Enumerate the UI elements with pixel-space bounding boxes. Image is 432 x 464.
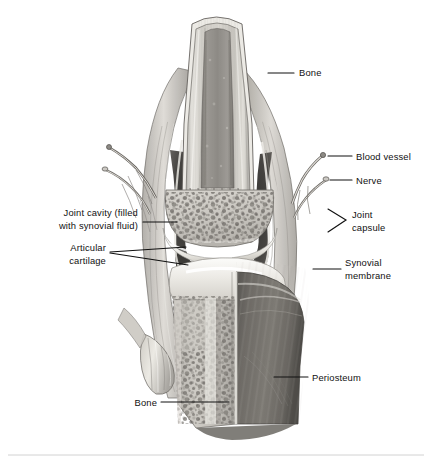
periosteum-texture: [232, 262, 312, 428]
label-nerve: Nerve: [356, 175, 382, 186]
label-articular-cartilage-line2: cartilage: [69, 255, 106, 266]
label-periosteum: Periosteum: [312, 372, 361, 383]
joint-illustration-svg: Bone Blood vessel Nerve Joint capsule Sy…: [0, 0, 432, 464]
synovial-joint-figure: Bone Blood vessel Nerve Joint capsule Sy…: [0, 0, 432, 464]
label-synovial-membrane-line1: Synovial: [345, 257, 382, 268]
label-bone-top: Bone: [299, 67, 322, 78]
label-joint-cavity-line2: with synovial fluid): [58, 220, 138, 231]
nerve-right-cut-end: [323, 177, 329, 181]
label-blood-vessel: Blood vessel: [356, 151, 411, 162]
label-joint-capsule-line2: capsule: [352, 222, 385, 233]
label-synovial-membrane-line2: membrane: [345, 270, 391, 281]
blood-vessel-left-cut-end: [107, 145, 112, 150]
label-joint-cavity-line1: Joint cavity (filled: [64, 207, 138, 218]
label-joint-capsule-line1: Joint: [352, 209, 373, 220]
label-bone-bottom: Bone: [135, 397, 158, 408]
tibia-subchondral-patch: [174, 300, 206, 352]
blood-vessel-right-cut-end: [320, 152, 325, 157]
nerve-left-cut-end: [102, 167, 108, 171]
tibia-spongy-bone: [170, 296, 242, 428]
label-articular-cartilage-line1: Articular: [70, 242, 106, 253]
tibia-periosteum: [232, 262, 312, 428]
